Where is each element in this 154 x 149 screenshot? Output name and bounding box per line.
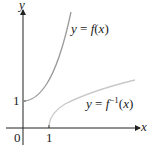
- function-inverse-diagram: y x 0 1 1 y = f(x) y = f−1(x): [0, 0, 154, 149]
- curve-f: [23, 12, 71, 101]
- curve-f-inverse-label: y = f−1(x): [84, 95, 133, 111]
- x-axis-label: x: [140, 119, 147, 134]
- x-tick-label: 1: [46, 130, 53, 145]
- y-axis-label: y: [17, 0, 25, 12]
- origin-label: 0: [14, 130, 21, 145]
- y-tick-label: 1: [13, 93, 20, 108]
- curve-f-label: y = f(x): [69, 21, 109, 36]
